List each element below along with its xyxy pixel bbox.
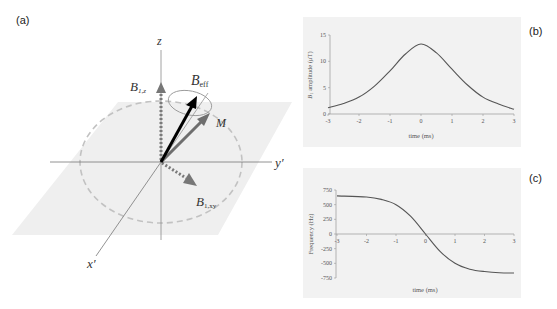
panel-a-label: (a) — [16, 14, 29, 26]
y-tick-label: 750 — [323, 187, 332, 193]
x-axis-label: x′ — [86, 256, 96, 271]
x-tick-label: 0 — [424, 238, 427, 244]
y-tick-label: 5 — [323, 85, 326, 91]
panel-a: (a) z y′ x′ B1,z Beff — [12, 14, 292, 271]
x-tick-label: -2 — [357, 118, 362, 124]
panel-b-background — [303, 17, 521, 147]
z-axis-label: z — [156, 34, 162, 48]
y-tick-label: 10 — [320, 58, 326, 64]
b-xlabel: time (ms) — [408, 132, 433, 140]
y-tick-label: 0 — [323, 111, 326, 117]
x-tick-label: -2 — [364, 238, 369, 244]
panel-c-chart: (c) -3-2-101237505002500-250-500-750 Fre… — [303, 168, 542, 298]
panel-b-chart: (b) -3-2-10123051015 B1 amplitude (μT) t… — [303, 17, 542, 147]
x-tick-label: 1 — [451, 118, 454, 124]
panel-b-label: (b) — [529, 25, 542, 37]
y-tick-label: 250 — [323, 216, 332, 222]
m-label: M — [215, 116, 227, 130]
x-tick-label: 1 — [454, 238, 457, 244]
xy-plane — [12, 102, 292, 235]
y-tick-label: -500 — [321, 260, 332, 266]
b1z-arrow-head — [156, 82, 166, 93]
x-tick-label: 3 — [513, 238, 516, 244]
beff-label: Beff — [191, 73, 209, 89]
x-tick-label: -3 — [326, 118, 331, 124]
c-xlabel: time (ms) — [412, 286, 437, 294]
x-tick-label: -1 — [394, 238, 399, 244]
y-tick-label: -750 — [321, 275, 332, 281]
b-ylabel: B1 amplitude (μT) — [306, 51, 314, 98]
y-axis-label: y′ — [273, 155, 284, 170]
y-tick-label: 15 — [320, 32, 326, 38]
panel-c-label: (c) — [529, 172, 542, 184]
x-tick-label: 3 — [513, 118, 516, 124]
b1z-label: B1,z — [130, 79, 146, 95]
x-tick-label: -3 — [335, 238, 340, 244]
c-ylabel: Frequency (Hz) — [307, 214, 315, 255]
x-tick-label: 0 — [420, 118, 423, 124]
x-tick-label: 2 — [483, 238, 486, 244]
x-tick-label: 2 — [482, 118, 485, 124]
y-tick-label: -250 — [321, 246, 332, 252]
x-tick-label: -1 — [388, 118, 393, 124]
y-tick-label: 500 — [323, 202, 332, 208]
y-tick-label: 0 — [329, 231, 332, 237]
figure: (a) z y′ x′ B1,z Beff — [0, 0, 557, 309]
